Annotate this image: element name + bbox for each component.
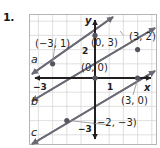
point-label-3-2: (3, 2) xyxy=(129,32,156,42)
y-axis-name: y xyxy=(85,16,92,26)
point-marker-0-0 xyxy=(92,75,97,80)
y-tick-label-neg3: −3 xyxy=(78,125,92,134)
point-marker-3-0 xyxy=(135,75,140,80)
point-marker-3-2 xyxy=(135,47,140,52)
coordinate-graph-figure: (−3, 1) (0, 3) (3, 2) (0, 0) (3, 0) (−2,… xyxy=(29,14,157,145)
line-label-a: a xyxy=(31,54,38,65)
problem-number: 1. xyxy=(3,11,14,24)
point-label-origin: (0, 0) xyxy=(81,63,108,73)
point-label-0-3: (0, 3) xyxy=(91,38,118,48)
y-tick-label-2: 2 xyxy=(82,47,88,56)
line-label-b: b xyxy=(31,96,38,107)
point-label-neg2-neg3: (−2, −3) xyxy=(93,118,137,128)
x-tick-label-1: 1 xyxy=(107,83,113,92)
point-marker-neg2-neg3 xyxy=(64,118,69,123)
point-label-3-0: (3, 0) xyxy=(121,96,148,106)
x-tick-label-neg3: −3 xyxy=(33,83,47,92)
x-axis-name: x xyxy=(144,83,150,93)
point-label-neg3-1: (−3, 1) xyxy=(35,39,70,49)
line-label-c: c xyxy=(31,127,37,138)
point-marker-neg3-1 xyxy=(50,61,55,66)
